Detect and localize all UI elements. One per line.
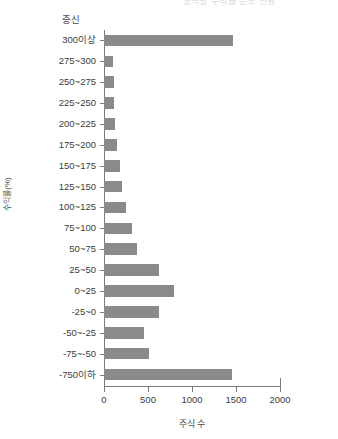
category-label: 275~300	[24, 54, 96, 68]
bar-row: -750이하	[104, 364, 280, 385]
x-axis-tick-label: 2000	[255, 393, 305, 406]
bar	[104, 118, 115, 130]
category-label: 75~100	[24, 221, 96, 235]
x-axis-tick	[192, 386, 193, 392]
bar	[104, 139, 117, 151]
category-label: 150~175	[24, 159, 96, 173]
bar-row: 250~275	[104, 72, 280, 93]
category-label: -50~-25	[24, 326, 96, 340]
bar	[104, 264, 159, 276]
bar-row: 225~250	[104, 93, 280, 114]
category-label: 175~200	[24, 138, 96, 152]
bar	[104, 202, 126, 214]
bar	[104, 369, 232, 381]
bar-row: 100~125	[104, 197, 280, 218]
x-axis-tick	[280, 386, 281, 392]
category-label: 50~75	[24, 242, 96, 256]
category-label: -75~-50	[24, 347, 96, 361]
bar	[104, 327, 144, 339]
category-label: 125~150	[24, 180, 96, 194]
bar-row: -25~0	[104, 301, 280, 322]
x-axis-tick	[148, 386, 149, 392]
bar-row: 200~225	[104, 114, 280, 135]
category-label: 250~275	[24, 75, 96, 89]
bar-row: 0~25	[104, 281, 280, 302]
category-label: -750이하	[24, 368, 96, 382]
category-column-header: 증신	[48, 13, 94, 27]
bar-row: 275~300	[104, 51, 280, 72]
bar	[104, 285, 174, 297]
bar-chart: 종목별 수익률 분포 현황 증신 수익률(%) 300이상275~300250~…	[0, 0, 338, 439]
bar-row: 300이상	[104, 30, 280, 51]
x-axis-tick-label: 500	[123, 393, 173, 406]
bar-row: 50~75	[104, 239, 280, 260]
x-axis-title: 주식 수	[104, 417, 280, 431]
category-label: 225~250	[24, 96, 96, 110]
bar	[104, 76, 114, 88]
x-axis-tick-label: 1000	[167, 393, 217, 406]
category-label: 100~125	[24, 200, 96, 214]
bar	[104, 181, 122, 193]
bar-row: -50~-25	[104, 322, 280, 343]
category-label: 25~50	[24, 263, 96, 277]
category-label: 0~25	[24, 284, 96, 298]
bar	[104, 223, 132, 235]
x-axis-tick-label: 1500	[211, 393, 261, 406]
plot-area: 300이상275~300250~275225~250200~225175~200…	[104, 30, 280, 385]
bar	[104, 97, 114, 109]
category-label: 200~225	[24, 117, 96, 131]
bar	[104, 160, 120, 172]
bar-row: -75~-50	[104, 343, 280, 364]
bar-row: 25~50	[104, 260, 280, 281]
y-axis-title: 수익률(%)	[2, 164, 14, 224]
bar-row: 125~150	[104, 176, 280, 197]
bar	[104, 348, 149, 360]
bar	[104, 56, 113, 68]
chart-title: 종목별 수익률 분포 현황	[120, 0, 338, 6]
bar-row: 75~100	[104, 218, 280, 239]
bar-row: 175~200	[104, 134, 280, 155]
x-axis-tick	[236, 386, 237, 392]
bar	[104, 35, 233, 47]
x-axis-tick	[104, 386, 105, 392]
category-label: -25~0	[24, 305, 96, 319]
bar	[104, 243, 137, 255]
x-axis-tick-label: 0	[79, 393, 129, 406]
bar	[104, 306, 159, 318]
bar-row: 150~175	[104, 155, 280, 176]
category-label: 300이상	[24, 33, 96, 47]
